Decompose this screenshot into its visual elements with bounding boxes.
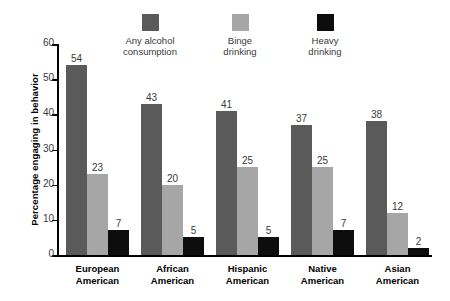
bar: 41 [216, 111, 237, 255]
bar: 5 [183, 237, 204, 255]
bar-value-label: 20 [167, 173, 178, 184]
bar-group: 41255 [216, 44, 279, 255]
bar: 25 [312, 167, 333, 255]
bar: 37 [291, 125, 312, 255]
legend-label: Any alcoholconsumption [105, 35, 195, 57]
bar-group: 38122 [366, 44, 429, 255]
legend-swatch-icon [232, 14, 249, 31]
bar-value-label: 37 [296, 113, 307, 124]
bar-value-label: 7 [116, 218, 122, 229]
legend-item-2: Heavydrinking [280, 14, 370, 57]
bar-value-label: 23 [92, 162, 103, 173]
bar-chart: Percentage engaging in behavior 01020304… [0, 0, 450, 301]
bar-value-label: 7 [341, 218, 347, 229]
legend-label: Heavydrinking [280, 35, 370, 57]
legend-label-line1: Any alcohol [105, 35, 195, 46]
bar: 7 [108, 230, 129, 255]
y-tick-label: 30 [43, 143, 54, 154]
bar-value-label: 5 [266, 225, 272, 236]
y-axis-title: Percentage engaging in behavior [29, 50, 40, 250]
legend-label-line1: Binge [195, 35, 285, 46]
y-tick-label: 0 [48, 248, 54, 259]
x-axis-line [57, 255, 432, 257]
bar-value-label: 25 [242, 155, 253, 166]
bar: 54 [66, 65, 87, 255]
legend-label-line2: drinking [280, 46, 370, 57]
legend-label-line2: consumption [105, 46, 195, 57]
bar-group: 37257 [291, 44, 354, 255]
legend-item-1: Bingedrinking [195, 14, 285, 57]
bar-value-label: 2 [416, 236, 422, 247]
bar-value-label: 41 [221, 99, 232, 110]
legend-label-line2: drinking [195, 46, 285, 57]
x-axis-label-line1: Asian [353, 263, 443, 275]
legend-label: Bingedrinking [195, 35, 285, 57]
bar: 43 [141, 104, 162, 255]
y-tick-label: 40 [43, 107, 54, 118]
bar: 20 [162, 185, 183, 255]
bar-value-label: 12 [392, 201, 403, 212]
legend-item-0: Any alcoholconsumption [105, 14, 195, 57]
legend-label-line1: Heavy [280, 35, 370, 46]
bar: 2 [408, 248, 429, 255]
chart-legend: Any alcoholconsumptionBingedrinkingHeavy… [0, 14, 450, 64]
x-axis-label-4: AsianAmerican [353, 263, 443, 286]
bar: 25 [237, 167, 258, 255]
y-tick-label: 20 [43, 178, 54, 189]
y-axis-line [57, 44, 59, 255]
bar-value-label: 5 [191, 225, 197, 236]
legend-swatch-icon [317, 14, 334, 31]
legend-swatch-icon [142, 14, 159, 31]
bar: 7 [333, 230, 354, 255]
bar-group: 54237 [66, 44, 129, 255]
bar-value-label: 43 [146, 92, 157, 103]
bar-group: 43205 [141, 44, 204, 255]
x-axis-label-line2: American [353, 275, 443, 287]
plot-area: 0102030405060 5423743205412553725738122 [57, 44, 432, 255]
y-tick-label: 10 [43, 213, 54, 224]
bar: 38 [366, 121, 387, 255]
bar: 23 [87, 174, 108, 255]
bar-value-label: 25 [317, 155, 328, 166]
bar: 5 [258, 237, 279, 255]
bar: 12 [387, 213, 408, 255]
bar-value-label: 38 [371, 109, 382, 120]
y-tick-label: 50 [43, 72, 54, 83]
